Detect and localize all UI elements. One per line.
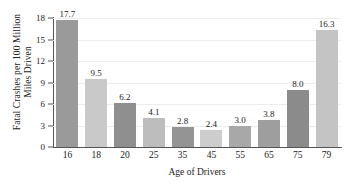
bar [56,20,78,147]
x-tick-label: 20 [111,150,140,160]
bar-group: 2.8 [168,18,197,147]
bar-value-label: 8.0 [283,79,312,89]
x-tick-label: 75 [283,150,312,160]
x-tick-label: 18 [82,150,111,160]
y-tick-label: 9 [41,78,46,88]
bar-value-label: 4.1 [139,107,168,117]
bar [200,130,222,147]
x-axis-ticks: 16182025354555657579 [53,150,341,166]
y-tick-label: 12 [36,56,45,66]
x-tick-label: 79 [312,150,341,160]
bar [258,120,280,147]
y-tick-label: 0 [41,142,46,152]
bar-value-label: 2.8 [168,116,197,126]
x-tick-label: 65 [255,150,284,160]
bar-group: 4.1 [139,18,168,147]
bar-group: 2.4 [197,18,226,147]
x-tick-label: 35 [168,150,197,160]
x-axis-title: Age of Drivers [53,167,341,177]
bar-group: 3.8 [255,18,284,147]
y-tick-label: 15 [36,35,45,45]
fatal-crashes-bar-chart: Fatal Crashes per 100 Million Miles Driv… [0,0,348,188]
x-tick-label: 16 [53,150,82,160]
bar [229,126,251,148]
x-tick-label: 45 [197,150,226,160]
bar [172,127,194,147]
bar-value-label: 17.7 [53,9,82,19]
bar-group: 17.7 [53,18,82,147]
y-tick-label: 6 [41,99,46,109]
bar [287,90,309,147]
bar-value-label: 9.5 [82,68,111,78]
bar-value-label: 6.2 [111,92,140,102]
y-tick-label: 3 [41,121,46,131]
bar-value-label: 16.3 [312,19,341,29]
bar-group: 6.2 [111,18,140,147]
bars-layer: 17.79.56.24.12.82.43.03.88.016.3 [53,18,341,147]
bar [143,118,165,147]
bar-value-label: 2.4 [197,119,226,129]
bar-group: 16.3 [312,18,341,147]
x-tick-label: 25 [139,150,168,160]
bar [114,103,136,147]
y-axis-ticks: 0369121518 [0,0,53,188]
bar-value-label: 3.8 [255,109,284,119]
y-tick-label: 18 [36,13,45,23]
x-axis-line [53,147,342,148]
bar-group: 9.5 [82,18,111,147]
bar [316,30,338,147]
bar [85,79,107,147]
bar-group: 8.0 [283,18,312,147]
bar-value-label: 3.0 [226,115,255,125]
bar-group: 3.0 [226,18,255,147]
x-tick-label: 55 [226,150,255,160]
